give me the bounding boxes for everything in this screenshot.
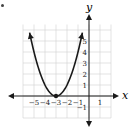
svg-text:1: 1 (98, 99, 102, 107)
axes (8, 14, 119, 127)
svg-text:4: 4 (83, 49, 88, 57)
svg-text:−5: −5 (29, 99, 39, 107)
svg-text:−1: −1 (77, 104, 87, 112)
svg-text:−3: −3 (51, 99, 61, 107)
svg-text:2: 2 (83, 71, 87, 79)
svg-text:−4: −4 (40, 99, 51, 107)
y-axis-label: y (85, 1, 93, 14)
svg-text:3: 3 (83, 60, 87, 68)
parabola-graph: −5−4−3−2−11−112345 x y (0, 0, 133, 130)
x-axis-label: x (122, 89, 129, 102)
svg-text:1: 1 (83, 82, 87, 90)
svg-text:−2: −2 (62, 99, 72, 107)
